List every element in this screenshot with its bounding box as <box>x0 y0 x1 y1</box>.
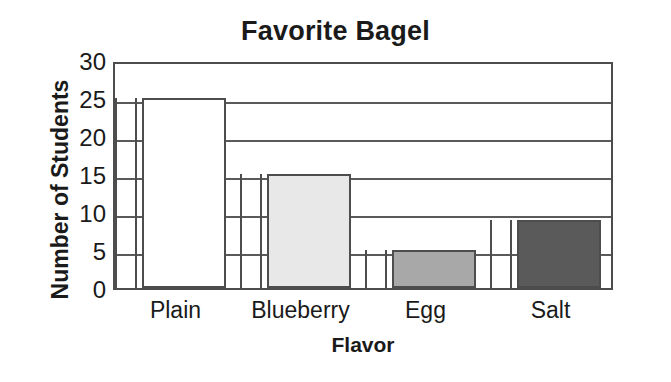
tick-column <box>115 98 137 288</box>
y-axis-tick-labels: 051015202530 <box>52 62 106 290</box>
x-axis-category-labels: PlainBlueberryEggSalt <box>113 293 613 331</box>
bar-egg <box>392 250 476 288</box>
y-tick-label: 0 <box>52 278 106 302</box>
category-label-salt: Salt <box>488 293 613 327</box>
bar-plain <box>142 98 226 288</box>
y-tick-label: 15 <box>52 164 106 188</box>
chart-title: Favorite Bagel <box>0 16 671 47</box>
y-tick-label: 30 <box>52 50 106 74</box>
bar-chart: Favorite Bagel Number of Students 051015… <box>0 0 671 382</box>
category-label-plain: Plain <box>113 293 238 327</box>
category-label-egg: Egg <box>363 293 488 327</box>
y-tick-label: 25 <box>52 88 106 112</box>
category-label-blueberry: Blueberry <box>238 293 363 327</box>
y-tick-label: 10 <box>52 202 106 226</box>
x-axis-title: Flavor <box>113 333 613 357</box>
tick-column <box>365 250 387 288</box>
bar-salt <box>517 220 601 288</box>
tick-column <box>240 174 262 288</box>
bar-blueberry <box>267 174 351 288</box>
y-tick-label: 5 <box>52 240 106 264</box>
y-tick-label: 20 <box>52 126 106 150</box>
plot-area <box>113 62 613 290</box>
tick-column <box>490 220 512 288</box>
